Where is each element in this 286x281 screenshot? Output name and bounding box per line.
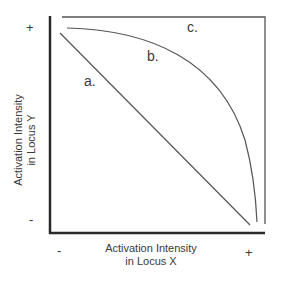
x-axis-max-label: +	[245, 245, 253, 260]
y-axis-title: Activation Intensity in Locus Y	[12, 75, 38, 205]
y-axis-title-line1: Activation Intensity	[12, 75, 25, 205]
diagram-canvas	[0, 0, 286, 281]
x-axis-title: Activation Intensity in Locus X	[86, 242, 216, 268]
tradeoff-diagram: + - - + Activation Intensity in Locus Y …	[0, 0, 286, 281]
x-axis-title-line1: Activation Intensity	[86, 242, 216, 255]
x-axis-min-label: -	[57, 243, 61, 258]
curve-b	[67, 28, 257, 222]
curve-c-label: c.	[187, 19, 198, 35]
y-axis-max-label: +	[26, 20, 34, 35]
y-axis-min-label: -	[29, 212, 33, 227]
curve-b-label: b.	[147, 48, 159, 64]
x-axis-title-line2: in Locus X	[86, 255, 216, 268]
curve-a-label: a.	[84, 73, 96, 89]
y-axis-title-line2: in Locus Y	[25, 75, 38, 205]
